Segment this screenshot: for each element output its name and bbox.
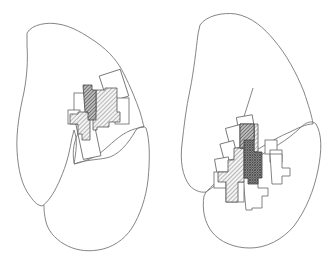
diagram-canvas	[0, 0, 331, 265]
right-region-box	[270, 154, 290, 184]
right-hatched-region	[254, 124, 258, 152]
figure	[0, 0, 331, 265]
left-panel	[17, 23, 149, 250]
right-panel	[181, 13, 321, 248]
